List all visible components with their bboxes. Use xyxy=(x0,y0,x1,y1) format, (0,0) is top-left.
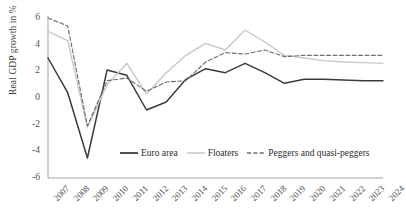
legend-item-floaters[interactable]: Floaters xyxy=(187,148,239,158)
legend-swatch-euro-area xyxy=(120,149,138,157)
legend-label-peggers-and-quasi-peggers: Peggers and quasi-peggers xyxy=(268,148,369,158)
chart-legend: Euro area Floaters Peggers and quasi-peg… xyxy=(120,148,370,158)
legend-swatch-floaters xyxy=(187,149,205,157)
legend-swatch-peggers-and-quasi-peggers xyxy=(247,149,265,157)
series-line-euro-area xyxy=(48,58,383,158)
legend-item-euro-area[interactable]: Euro area xyxy=(120,148,178,158)
legend-label-euro-area: Euro area xyxy=(141,148,178,158)
legend-label-floaters: Floaters xyxy=(208,148,239,158)
legend-item-peggers-and-quasi-peggers[interactable]: Peggers and quasi-peggers xyxy=(247,148,369,158)
